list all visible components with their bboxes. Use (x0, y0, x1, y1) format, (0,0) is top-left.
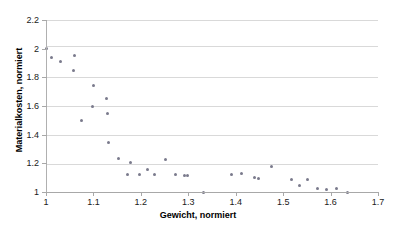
y-tick-label: 2 (34, 44, 39, 54)
data-point (335, 187, 338, 190)
data-point (59, 60, 62, 63)
y-tick-label: 1.4 (26, 130, 39, 140)
x-tick-mark (141, 192, 142, 196)
data-point (91, 105, 94, 108)
data-point (257, 177, 260, 180)
data-point (117, 157, 120, 160)
data-point (92, 84, 95, 87)
x-tick-label: 1.5 (268, 197, 298, 207)
x-tick-mark (331, 192, 332, 196)
x-tick-mark (378, 192, 379, 196)
x-tick-label: 1.2 (126, 197, 156, 207)
plot-area (46, 20, 378, 192)
data-point (80, 119, 83, 122)
gridline (46, 106, 378, 107)
y-tick-label: 1.8 (26, 72, 39, 82)
y-tick-label: 1.6 (26, 101, 39, 111)
x-tick-label: 1.7 (363, 197, 393, 207)
x-tick-mark (93, 192, 94, 196)
data-point (105, 97, 108, 100)
x-tick-mark (188, 192, 189, 196)
gridline (46, 46, 378, 47)
y-tick-mark (42, 163, 47, 164)
y-tick-label: 2.2 (26, 15, 39, 25)
gridline (46, 135, 378, 136)
y-tick-mark (42, 49, 47, 50)
data-point (106, 112, 109, 115)
data-point (164, 158, 167, 161)
y-tick-mark (42, 20, 47, 21)
data-point (126, 173, 129, 176)
x-tick-label: 1.6 (316, 197, 346, 207)
data-point (153, 173, 156, 176)
gridline (46, 164, 378, 165)
data-point (290, 178, 293, 181)
x-tick-label: 1.4 (221, 197, 251, 207)
y-tick-label: 1 (34, 187, 39, 197)
y-axis-title: Materialkosten, normiert (14, 15, 24, 185)
y-tick-mark (42, 106, 47, 107)
data-point (306, 178, 309, 181)
x-tick-mark (236, 192, 237, 196)
y-tick-label: 1.2 (26, 158, 39, 168)
data-point (298, 184, 301, 187)
x-tick-mark (46, 192, 47, 196)
data-point (174, 173, 177, 176)
data-point (325, 188, 328, 191)
x-tick-mark (283, 192, 284, 196)
gridline (46, 20, 378, 21)
data-point (146, 168, 149, 171)
data-point (72, 69, 75, 72)
x-axis-title: Gewicht, normiert (0, 210, 396, 220)
data-point (73, 54, 76, 57)
gridline (46, 77, 378, 78)
scatter-chart: 11.21.41.61.822.2 11.11.21.31.41.51.61.7… (0, 0, 396, 231)
data-point (50, 56, 53, 59)
x-tick-label: 1 (31, 197, 61, 207)
data-point (230, 173, 233, 176)
x-axis-line (46, 192, 378, 193)
data-point (240, 172, 243, 175)
x-tick-label: 1.1 (78, 197, 108, 207)
data-point (138, 173, 141, 176)
y-tick-mark (42, 77, 47, 78)
data-point (270, 165, 273, 168)
data-point (186, 174, 189, 177)
data-point (253, 176, 256, 179)
x-tick-label: 1.3 (173, 197, 203, 207)
data-point (316, 187, 319, 190)
y-tick-mark (42, 135, 47, 136)
data-point (107, 141, 110, 144)
